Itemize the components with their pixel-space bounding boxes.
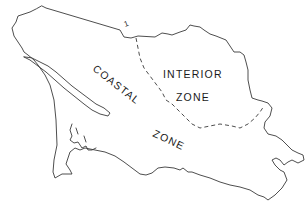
landmass-outline bbox=[12, 6, 304, 200]
coastal-zone-label-line1: COASTAL bbox=[91, 62, 143, 106]
zone-map: 1 INTERIOR ZONE COASTAL ZONE bbox=[0, 0, 308, 210]
interior-zone-label-line2: ZONE bbox=[176, 91, 210, 103]
coastal-zone-label-line2: ZONE bbox=[151, 127, 187, 152]
map-marker: 1 bbox=[123, 19, 131, 29]
zone-boundary bbox=[136, 38, 264, 128]
estuary-detail bbox=[70, 124, 96, 150]
interior-zone-label-line1: INTERIOR bbox=[163, 68, 223, 80]
